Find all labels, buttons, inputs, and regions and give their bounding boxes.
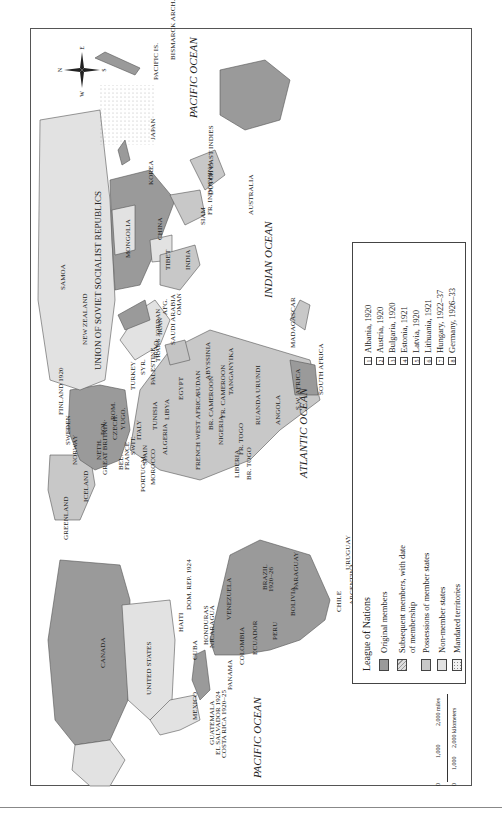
pacific-ocean-label-west: PACIFIC OCEAN [252,697,263,778]
label-libya: LIBYA [164,399,171,420]
label-sudan: SUDAN [195,370,202,395]
label-ruanda-urundi: RUANDA URUNDI [255,365,262,425]
label-united-states: UNITED STATES [146,642,153,695]
label-egypt: EGYPT [178,377,185,400]
label-french-west-africa: FRENCH WEST AFRICA [195,393,202,470]
label-italy: ITALY [136,420,143,440]
label-haiti: HAITI [178,612,185,632]
svg-text:E: E [79,46,85,50]
label-peru: PERU [272,622,279,640]
label-tibet: TIBET [165,250,172,270]
label-korea: KOREA [148,160,155,185]
label-india: INDIA [185,250,192,270]
label-pol: POL. [100,420,107,435]
label-angola: ANGOLA [275,395,282,425]
numbered-item-5: 5Latvia, 1920 [411,310,421,365]
numbered-item-3: 3Bulgaria, 1920 [387,302,397,365]
label-dutch-east-indies: DUTCH EAST INDIES [208,125,215,195]
indian-ocean-label: INDIAN OCEAN [263,221,274,298]
label-sweden: SWEDEN [65,415,72,445]
label-ussr: UNION OF SOVIET SOCIALIST REPUBLICS [95,191,102,370]
label-dom-rep: DOM. REP. 1924 [186,559,193,610]
label-algeria: ALGERIA [162,424,169,455]
compass-rose-icon: E W N S [52,40,112,100]
label-madagascar: MADAGASCAR [290,297,297,348]
legend-title: League of Nations [361,597,372,671]
label-bolivia: BOLIVIA [290,587,297,616]
label-br-cameroon: BR. CAMEROON [208,376,215,430]
label-rom: ROM. [110,402,117,420]
label-chile: CHILE [336,591,343,612]
swatch-original [379,659,389,671]
page-rule [0,807,502,808]
label-yugo: YUGO. [120,408,127,430]
pacific-ocean-label-east: PACIFIC OCEAN [188,37,199,118]
label-iraq: IRAQ [153,340,160,358]
label-greenland: GREENLAND [63,496,70,540]
alaska-shape [72,740,125,786]
label-br-togo: BR. TOGO [246,447,253,480]
legend-item-subsequent: Subsequent members, with date of members… [397,521,417,671]
legend-item-non-member: Non-member states [437,587,447,671]
legend-item-mandated: Mandated territories [452,584,462,671]
label-nigeria: NIGERIA [218,416,225,445]
label-nicaragua: NICARAGUA [209,605,216,648]
svg-text:W: W [79,91,85,97]
label-abyssinia: ABYSSINIA [205,342,212,380]
label-oman: OMAN [176,293,183,315]
swatch-possessions [421,659,431,671]
scale-bar: 0 1,000 2,000 miles 0 1,000 2,000 kilome… [425,690,475,786]
label-china: CHINA [157,217,164,240]
label-paraguay: PARAGUAY [293,552,300,590]
svg-text:S: S [101,68,107,71]
label-uruguay: URUGUAY [345,535,352,570]
australia-shape [220,60,290,130]
label-tunisia: TUNISIA [152,401,159,430]
label-samoa: SAMOA [60,264,67,290]
label-turkey: TURKEY [130,361,137,390]
label-cuba: CUBA [192,640,199,660]
label-norway: NORWAY [72,435,79,465]
label-fr-togo: FR. TOGO [238,423,245,455]
label-south-africa: SOUTH AFRICA [318,343,325,395]
label-syr: SYR. [140,359,147,375]
label-spain: SPAIN [142,445,149,465]
legend: League of Nations Original members Subse… [352,242,466,684]
label-pacific-is: PACIFIC IS. [153,43,160,80]
label-bismarck-arch: BISMARCK ARCH. [170,0,177,60]
label-morocco: MOROCCO [150,449,157,485]
label-new-zealand: NEW ZEALAND [82,293,89,345]
label-mexico: MEXICO [192,692,199,720]
label-finland: FINLAND 1920 [58,367,65,415]
swatch-subsequent [397,659,407,671]
numbered-item-7: 7Hungary, 1922–37 [435,290,445,365]
label-iran: IRAN [157,317,164,335]
numbered-item-2: 2Austria, 1920 [375,307,385,365]
numbered-item-1: 1Albania, 1920 [363,305,373,365]
numbered-item-6: 6Lithuania, 1921 [423,299,433,365]
ussr-shape [38,110,115,390]
label-fr-cameroon: FR. CAMEROON [220,365,227,418]
label-iceland: ICELAND [83,471,90,502]
label-venezuela: VENEZUELA [226,577,233,620]
label-sw-africa: S.W. AFRICA [295,369,302,411]
legend-item-possessions: Possessions of member states [421,553,431,671]
label-tanganyika: TANGANYIKA [228,348,235,396]
label-mongolia: MONGOLIA [125,219,132,258]
label-canada: CANADA [100,637,107,668]
swatch-non-member [437,659,447,671]
svg-text:N: N [57,67,63,72]
label-australia: AUSTRALIA [248,174,255,215]
label-brazil-date: 1920–26 [268,567,275,592]
label-colombia: COLOMBIA [239,627,246,665]
swatch-mandated [452,659,462,671]
label-panama: PANAMA [227,660,234,690]
canada-shape [48,560,130,745]
legend-item-original: Original members [379,591,389,671]
label-afg: AFG. [162,299,169,315]
numbered-item-8: 8Germany, 1926–33 [447,288,457,365]
label-costa-rica: COSTA RICA 1920–25 [221,690,228,758]
label-japan: JAPAN [150,118,157,140]
label-ecuador: ECUADOR [252,620,259,655]
numbered-item-4: 4Estonia, 1921 [399,306,409,365]
